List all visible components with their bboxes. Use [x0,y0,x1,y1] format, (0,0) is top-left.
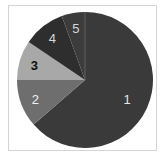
pie-label-1: 1 [123,92,130,107]
pie-slices [17,12,153,148]
pie-label-3: 3 [31,58,38,73]
pie-label-5: 5 [72,21,79,36]
pie-chart: 12345 [0,0,163,166]
pie-label-2: 2 [32,92,39,107]
pie-label-4: 4 [49,31,56,46]
